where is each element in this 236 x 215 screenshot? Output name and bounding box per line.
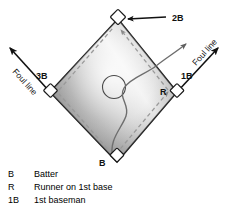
label-runner: R: [160, 87, 167, 97]
legend-row: B Batter: [0, 168, 236, 181]
legend-description: Batter: [34, 168, 58, 181]
legend-key: 1B: [0, 194, 34, 207]
legend-row: R Runner on 1st base: [0, 181, 236, 194]
legend: B Batter R Runner on 1st base 1B 1st bas…: [0, 168, 236, 207]
legend-description: Runner on 1st base: [34, 181, 113, 194]
legend-key: B: [0, 168, 34, 181]
label-third-base: 3B: [36, 71, 48, 81]
label-batter: B: [99, 158, 106, 168]
legend-key: R: [0, 181, 34, 194]
legend-row: 1B 1st baseman: [0, 194, 236, 207]
second-base-pointer-arrow: [128, 17, 166, 19]
label-second-base: 2B: [172, 13, 184, 23]
label-first-base: 1B: [181, 71, 193, 81]
second-base-marker: [110, 9, 126, 25]
legend-description: 1st baseman: [34, 194, 86, 207]
